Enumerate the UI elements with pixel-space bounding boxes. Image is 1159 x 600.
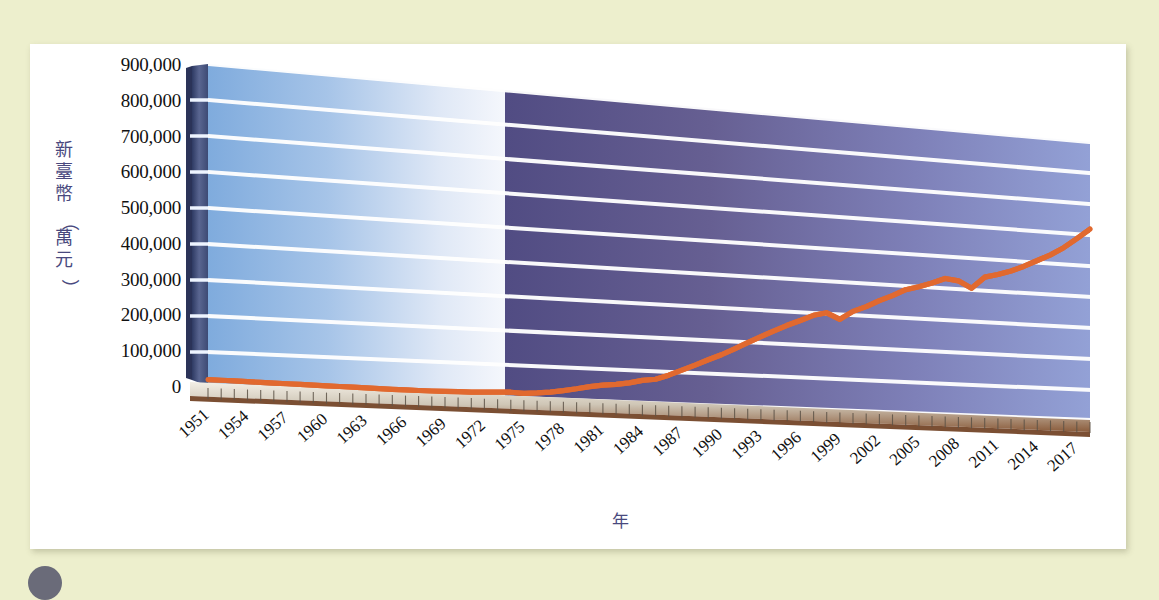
x-tick-label: 2008 bbox=[925, 434, 963, 471]
panel-band-left bbox=[208, 64, 505, 400]
x-tick-label: 1954 bbox=[214, 406, 252, 443]
x-tick-label: 1984 bbox=[609, 421, 647, 458]
x-tick-label: 1966 bbox=[372, 412, 410, 449]
x-tick-label: 2014 bbox=[1004, 437, 1042, 474]
x-tick-label: 1951 bbox=[175, 405, 213, 442]
plot-panel bbox=[208, 64, 1090, 420]
x-tick-label: 1963 bbox=[333, 411, 371, 448]
x-tick-label: 2005 bbox=[886, 432, 924, 469]
y-tick-label: 200,000 bbox=[121, 304, 181, 325]
x-tick-label: 2011 bbox=[965, 435, 1003, 471]
y-tick-label: 0 bbox=[172, 376, 181, 397]
y-axis-title: 新臺幣（萬元） bbox=[55, 139, 81, 297]
y-axis-tick-labels: 900,000800,000700,000600,000500,000400,0… bbox=[121, 54, 181, 397]
y-tick-label: 800,000 bbox=[121, 90, 181, 111]
x-axis-title: 年 bbox=[612, 511, 629, 531]
x-tick-label: 1960 bbox=[293, 409, 331, 446]
x-tick-label: 1978 bbox=[530, 419, 568, 456]
y-tick-label: 900,000 bbox=[121, 54, 181, 75]
x-tick-label: 1993 bbox=[728, 426, 766, 463]
y-axis-title-char: ） bbox=[60, 279, 81, 297]
x-tick-label: 2002 bbox=[846, 431, 884, 468]
x-tick-label: 1957 bbox=[254, 408, 292, 445]
y-tick-label: 300,000 bbox=[121, 269, 181, 290]
y-axis-title-char: 幣 bbox=[55, 183, 73, 204]
y-axis-title-char: 萬 bbox=[55, 227, 73, 248]
x-tick-label: 1996 bbox=[767, 428, 805, 465]
x-tick-label: 1999 bbox=[807, 429, 845, 466]
x-tick-label: 1981 bbox=[570, 420, 608, 457]
y-tick-label: 500,000 bbox=[121, 197, 181, 218]
x-tick-label: 1987 bbox=[649, 423, 687, 460]
y-tick-label: 700,000 bbox=[121, 126, 181, 147]
x-tick-label: 1969 bbox=[412, 414, 450, 451]
y-axis-title-char: 元 bbox=[55, 249, 73, 270]
y-tick-label: 600,000 bbox=[121, 161, 181, 182]
y-tick-label: 100,000 bbox=[121, 340, 181, 361]
x-tick-label: 1990 bbox=[688, 425, 726, 462]
y-tick-label: 400,000 bbox=[121, 233, 181, 254]
x-tick-label: 1972 bbox=[451, 416, 489, 453]
x-tick-label: 2017 bbox=[1043, 438, 1081, 475]
y-axis-title-char: 臺 bbox=[55, 161, 73, 182]
y-axis-title-char: 新 bbox=[55, 139, 73, 160]
left-3d-wall bbox=[186, 64, 208, 386]
x-tick-label: 1975 bbox=[491, 417, 529, 454]
